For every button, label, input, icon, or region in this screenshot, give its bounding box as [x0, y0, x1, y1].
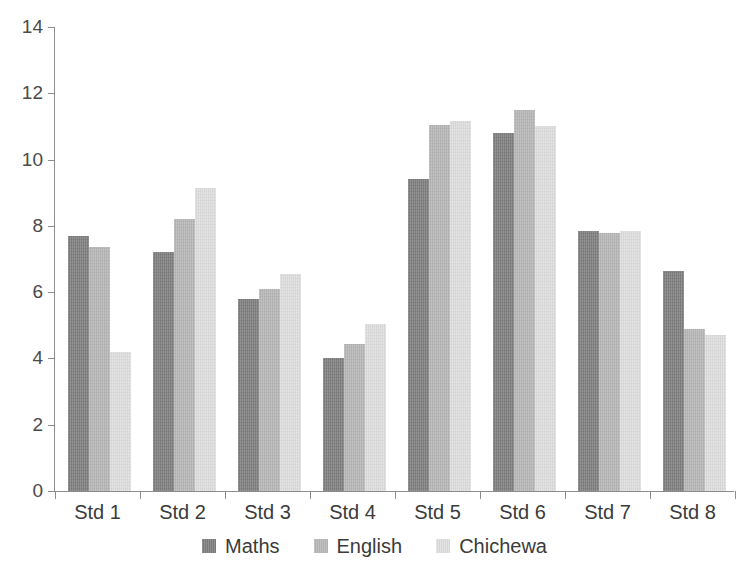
bar-chichewa-std-5 [450, 121, 471, 491]
y-axis-tick [48, 358, 55, 359]
x-axis-tick [480, 491, 481, 499]
bar-maths-std-1 [68, 236, 89, 491]
legend-label: Maths [225, 536, 279, 556]
legend-label: Chichewa [459, 536, 547, 556]
bar-maths-std-4 [323, 358, 344, 491]
x-axis-tick [55, 491, 56, 499]
bar-english-std-7 [599, 233, 620, 492]
y-axis-tick [48, 425, 55, 426]
bar-group [238, 27, 301, 491]
y-axis-tick-label: 2 [0, 415, 43, 434]
x-axis-tick [565, 491, 566, 499]
y-axis-tick-label: 6 [0, 282, 43, 301]
bar-group [68, 27, 131, 491]
bar-chichewa-std-6 [535, 126, 556, 491]
legend-swatch-icon [436, 539, 450, 553]
legend-swatch-icon [202, 539, 216, 553]
y-axis-tick-label: 0 [0, 481, 43, 500]
x-axis-tick [395, 491, 396, 499]
x-axis-tick [650, 491, 651, 499]
y-axis-tick-label: 8 [0, 216, 43, 235]
y-axis-tick [48, 292, 55, 293]
bar-english-std-8 [684, 329, 705, 491]
bar-chichewa-std-1 [110, 352, 131, 491]
legend-item-maths[interactable]: Maths [202, 536, 279, 556]
plot-area [55, 27, 733, 491]
legend-item-english[interactable]: English [314, 536, 403, 556]
bar-group [493, 27, 556, 491]
bar-chichewa-std-8 [705, 335, 726, 491]
bar-english-std-5 [429, 125, 450, 491]
bar-english-std-2 [174, 219, 195, 491]
bar-maths-std-6 [493, 133, 514, 491]
bar-english-std-1 [89, 247, 110, 491]
bar-group [323, 27, 386, 491]
chart-legend: MathsEnglishChichewa [0, 536, 749, 556]
bar-chichewa-std-2 [195, 188, 216, 491]
legend-swatch-icon [314, 539, 328, 553]
y-axis-tick-label: 10 [0, 150, 43, 169]
y-axis-tick [48, 93, 55, 94]
legend-label: English [337, 536, 403, 556]
bar-group [408, 27, 471, 491]
y-axis-tick [48, 226, 55, 227]
bar-english-std-4 [344, 344, 365, 491]
bar-chichewa-std-3 [280, 274, 301, 491]
bar-group [663, 27, 726, 491]
bar-maths-std-3 [238, 299, 259, 491]
bar-chichewa-std-4 [365, 324, 386, 491]
y-axis-tick [48, 160, 55, 161]
bar-english-std-6 [514, 110, 535, 491]
x-axis-tick [225, 491, 226, 499]
bar-chichewa-std-7 [620, 231, 641, 491]
bar-english-std-3 [259, 289, 280, 491]
bar-group [153, 27, 216, 491]
x-axis-label-std-8: Std 8 [633, 500, 749, 524]
y-axis-tick [48, 27, 55, 28]
bar-maths-std-5 [408, 179, 429, 491]
y-axis-tick-label: 12 [0, 83, 43, 102]
bar-maths-std-8 [663, 271, 684, 491]
x-axis-tick [140, 491, 141, 499]
y-axis-tick [48, 491, 55, 492]
bar-maths-std-7 [578, 231, 599, 491]
bar-group [578, 27, 641, 491]
x-axis-tick [310, 491, 311, 499]
bar-maths-std-2 [153, 252, 174, 491]
bar-chart: 02468101214 Std 1Std 2Std 3Std 4Std 5Std… [0, 0, 749, 575]
x-axis-line [54, 491, 734, 492]
legend-item-chichewa[interactable]: Chichewa [436, 536, 547, 556]
y-axis-tick-label: 14 [0, 17, 43, 36]
x-axis-tick [735, 491, 736, 499]
y-axis-tick-label: 4 [0, 348, 43, 367]
